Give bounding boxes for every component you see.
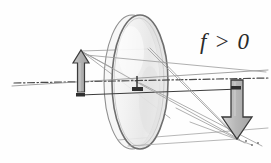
image-base-marker <box>231 86 241 90</box>
ray-diagram-canvas <box>0 0 271 163</box>
object-base-marker <box>76 93 85 97</box>
focal-length-condition-label: f > 0 <box>200 29 250 55</box>
lens-shade <box>139 66 161 134</box>
converging-lens-disc <box>112 15 168 149</box>
object-arrow <box>73 50 89 92</box>
lens-highlight <box>118 26 144 78</box>
optics-figure: f > 0 <box>0 0 271 163</box>
